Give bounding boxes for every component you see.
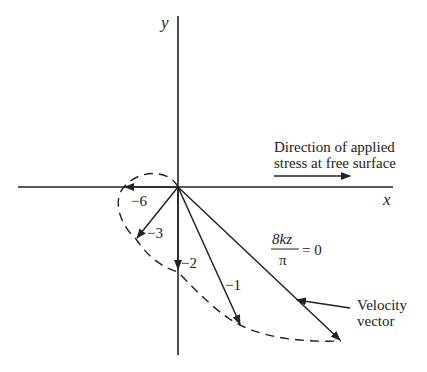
stress-annotation-line2: stress at free surface [274,155,396,171]
callout-line2: vector [357,313,394,329]
equation-denominator: π [279,252,287,268]
label-m6: −6 [131,193,147,209]
vector-z0 [178,187,340,340]
stress-annotation-line1: Direction of applied [274,139,395,155]
y-axis-label: y [159,13,169,32]
equation-rhs: = 0 [302,242,322,258]
label-m2: −2 [181,255,197,271]
label-m3: −3 [147,225,163,241]
ekman-spiral-diagram: y x Direction of applied stress at free … [0,0,427,372]
callout-line1: Velocity [357,297,407,313]
equation-numerator: 8kz [272,231,292,247]
x-axis-label: x [382,190,391,209]
label-m1: −1 [225,277,241,293]
